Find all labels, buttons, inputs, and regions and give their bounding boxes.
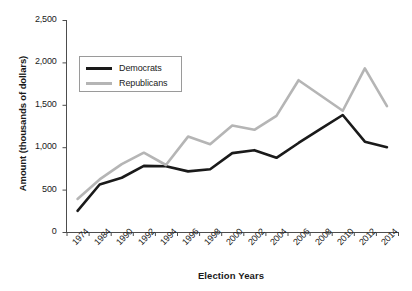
legend-swatch-democrats-icon — [86, 67, 112, 70]
chart-legend: Democrats Republicans — [79, 56, 182, 92]
y-axis-ticks — [63, 21, 67, 233]
legend-item-republicans: Republicans — [86, 77, 167, 89]
y-axis-tick-label: 500 — [15, 184, 57, 194]
y-axis-tick-label: 2,000 — [15, 56, 57, 66]
legend-swatch-republicans-icon — [86, 82, 112, 85]
y-axis-tick-label: 1,000 — [15, 141, 57, 151]
legend-label-democrats: Democrats — [119, 63, 162, 73]
plot-area — [0, 0, 412, 291]
y-axis-tick-label: 1,500 — [15, 99, 57, 109]
y-axis-tick-label: 2,500 — [15, 14, 57, 24]
legend-label-republicans: Republicans — [119, 78, 167, 88]
y-axis-tick-label: 0 — [15, 226, 57, 236]
chart-container: Amount (thousands of dollars) Election Y… — [0, 0, 412, 291]
legend-item-democrats: Democrats — [86, 62, 162, 74]
